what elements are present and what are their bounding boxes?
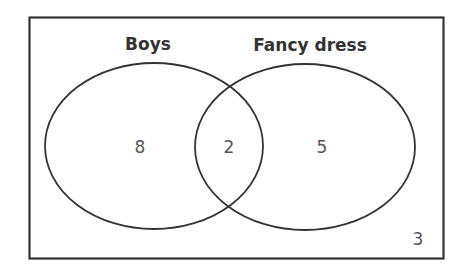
fancy-dress-set-label: Fancy dress — [253, 35, 367, 55]
venn-diagram: Boys Fancy dress 8 2 5 3 — [0, 0, 459, 270]
intersection-value: 2 — [224, 137, 235, 157]
outside-value: 3 — [413, 229, 424, 249]
boys-set-label: Boys — [125, 34, 171, 54]
universal-set-rectangle — [30, 18, 444, 259]
fancy-dress-only-value: 5 — [317, 137, 328, 157]
boys-only-value: 8 — [135, 137, 146, 157]
